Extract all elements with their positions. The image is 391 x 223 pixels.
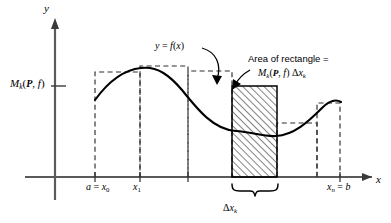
tick-x1-sub-1: 1: [137, 186, 140, 193]
x-axis-arrowhead: [362, 173, 372, 181]
delta-xk-label: Δxk: [223, 203, 237, 215]
riemann-sum-figure: y x Mk(P, f) y = f(x) Area of rectangle …: [0, 0, 391, 223]
area-annotation-line2: Mk(P, f) Δxk: [258, 68, 306, 80]
curve-label-leader-arrowhead: [212, 75, 222, 85]
mk-axis-value-label: Mk(P, f): [10, 78, 45, 91]
mk-axis-label-M: M: [10, 77, 19, 89]
upper-sum-rect-6: [317, 103, 340, 177]
tick-label-a-equals-x0: a = x0: [86, 182, 110, 194]
curve-label-leader-group: [202, 48, 222, 85]
curve-equation-label: y = f(x): [155, 41, 184, 51]
x-axis-label: x: [376, 174, 381, 185]
delta-xk-brace: [232, 184, 278, 196]
y-axis-label: y: [44, 3, 49, 14]
tick-xn-b: b: [346, 181, 351, 192]
area-label-sub2-k: k: [303, 72, 306, 79]
tick-label-xn-equals-b: xn = b: [327, 182, 351, 194]
tick-a-equals: =: [91, 181, 102, 192]
upper-sum-rect-5: [277, 123, 317, 177]
curve-label-close-paren: ): [181, 40, 184, 51]
mk-axis-label-close-paren: ): [41, 77, 45, 89]
upper-sum-rect-2: [140, 66, 188, 177]
upper-sum-rect-3: [188, 71, 232, 177]
upper-sum-rect-1: [95, 72, 140, 177]
curve-label-leader-line: [202, 48, 219, 80]
tick-xn-equals: =: [335, 181, 346, 192]
y-axis-arrowhead: [51, 18, 59, 29]
tick-a-sub-0: 0: [106, 186, 109, 193]
area-annotation-line1: Area of rectangle =: [248, 54, 329, 64]
curve-label-equals: =: [159, 40, 170, 51]
delta-xk-sub-k: k: [234, 207, 237, 214]
tick-label-x1: x1: [133, 182, 141, 194]
